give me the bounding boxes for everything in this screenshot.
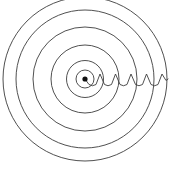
wavy-ray-line	[85, 74, 168, 86]
concentric-wavefront-figure: Concentric circular wavefronts radiating…	[0, 0, 171, 173]
wave-diagram-canvas: Concentric circular wavefronts radiating…	[0, 0, 171, 173]
point-source-dot	[82, 76, 87, 81]
